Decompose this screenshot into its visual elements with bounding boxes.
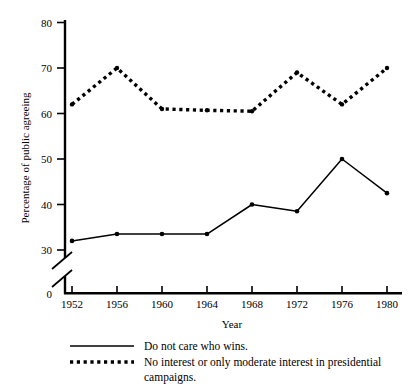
data-point-marker [295,209,300,214]
data-point-marker [250,202,255,207]
y-tick-label-60: 60 [41,108,53,120]
x-tick-label-1964: 1964 [196,298,219,310]
y-axis-title: Percentage of public agreeing [19,92,31,224]
data-point-marker [115,66,119,70]
x-tick-label-1980: 1980 [376,298,399,310]
legend-label-no-interest: No interest or only moderate interest in… [144,356,381,369]
y-tick-label-80: 80 [41,17,53,29]
x-tick-label-1976: 1976 [331,298,354,310]
data-point-marker [70,239,75,244]
data-point-marker [250,109,254,113]
series-do-not-care [70,157,390,244]
data-point-marker [115,232,120,237]
y-tick-label-70: 70 [41,62,53,74]
legend-label-do-not-care: Do not care who wins. [144,340,248,352]
x-tick-label-1952: 1952 [61,298,83,310]
x-axis-title: Year [222,318,243,330]
series-no-interest [70,66,389,114]
x-axis: 1952 1956 1960 1964 1968 1972 1976 1980 … [61,286,402,330]
chart-canvas: 80 70 60 50 40 30 0 Percentage of public… [0,0,410,392]
data-point-marker [160,232,165,237]
x-tick-label-1968: 1968 [241,298,264,310]
x-tick-label-1956: 1956 [106,298,129,310]
data-point-marker [205,232,210,237]
data-point-marker [340,102,344,106]
y-tick-label-30: 30 [41,244,53,256]
data-point-marker [205,108,209,112]
y-axis: 80 70 60 50 40 30 0 Percentage of public… [19,17,72,301]
data-point-marker [340,157,345,162]
data-point-marker [385,66,389,70]
line-chart-figure: 80 70 60 50 40 30 0 Percentage of public… [0,0,410,392]
y-tick-label-40: 40 [41,199,53,211]
y-tick-label-50: 50 [41,153,53,165]
chart-legend: Do not care who wins. No interest or onl… [70,340,381,384]
x-tick-label-1972: 1972 [286,298,308,310]
axis-break-slash-upper [52,252,72,269]
series-line [72,68,387,111]
data-point-marker [385,191,390,196]
data-point-marker [295,70,299,74]
data-point-marker [160,107,164,111]
axis-break-slash-lower [52,270,72,287]
data-point-marker [70,102,74,106]
series-line [72,159,387,241]
y-tick-label-0: 0 [47,288,53,300]
legend-label-no-interest-cont: campaigns. [144,371,196,384]
x-tick-label-1960: 1960 [151,298,174,310]
